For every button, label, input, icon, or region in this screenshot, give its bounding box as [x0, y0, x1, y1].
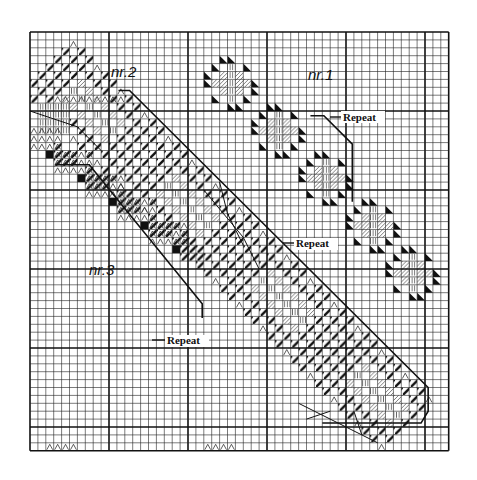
- label-repeat-nr3: Repeat: [167, 334, 200, 346]
- label-nr3: nr.3: [89, 261, 115, 278]
- label-nr2: nr.2: [111, 63, 137, 80]
- label-repeat-nr2: Repeat: [296, 237, 329, 249]
- cross-stitch-chart: nr.2 nr.1 nr.3 Repeat Repeat Repeat: [0, 0, 477, 480]
- label-nr1: nr.1: [308, 66, 333, 83]
- label-repeat-nr1: Repeat: [343, 111, 376, 123]
